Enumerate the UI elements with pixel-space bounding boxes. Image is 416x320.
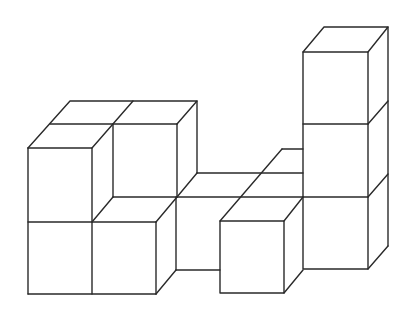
front-cube <box>220 197 303 293</box>
right-tower <box>303 27 388 269</box>
cube-drawing <box>0 0 416 320</box>
left-block <box>28 101 197 294</box>
diagram-canvas: Isometric cube structure <box>0 0 416 320</box>
